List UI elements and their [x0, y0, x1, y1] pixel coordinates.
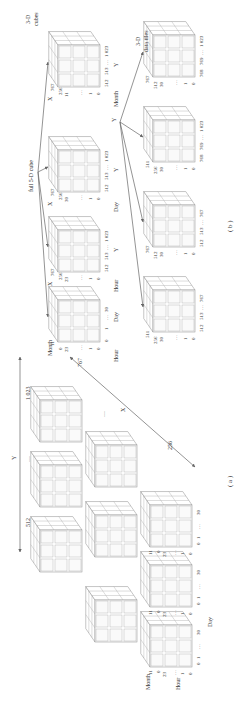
cube-cell [151, 520, 163, 532]
h-tick-dots: … [199, 50, 204, 55]
cube-cell [87, 259, 99, 271]
cube-side-face [144, 192, 195, 205]
cube-cell [59, 329, 71, 341]
root-label: full 5-D cube [28, 160, 34, 192]
panel-a-cube [141, 612, 192, 667]
depth-axis-label: X [47, 281, 53, 286]
cube-cell [87, 151, 99, 163]
top-row-label-line1: 3-D [25, 14, 31, 24]
panel-b-tile-tile-3: 30…10768769…1 023256511 [144, 107, 204, 174]
cube-cell [168, 291, 180, 303]
cube-side-face [31, 452, 82, 465]
cube-cell [154, 149, 166, 161]
cube-cell [110, 544, 122, 556]
hour-max-tick: 23 [162, 612, 167, 618]
panel-b-tile-tile-1: 30…10512513…767256511 [144, 277, 204, 344]
panel-a-cube [86, 587, 137, 642]
cube-cell [182, 234, 194, 246]
v-tick-zero: 0 [96, 92, 101, 95]
h-tick-second: 1 [104, 327, 109, 330]
h-tick-first: 768 [199, 154, 204, 162]
cube-cell [96, 629, 108, 641]
cube-cell [87, 46, 99, 58]
cube-cell [168, 305, 180, 317]
x-axis-end-label: 767 [77, 358, 83, 367]
panel-b-top-cube-month-hour-day: 23…1001…30011HourDayMonth [47, 287, 119, 362]
h-tick-second: 513 [199, 312, 204, 320]
cube-cell [59, 179, 71, 191]
cube-cell [96, 544, 108, 556]
v-tick-zero: 0 [191, 252, 196, 255]
d-tick-first: 256 [58, 87, 63, 95]
panel-b-tile-tile-4: 30…10768769…1 023512767 [144, 22, 204, 89]
day-one-tick: 1 [196, 536, 201, 539]
cube-side-face [31, 517, 82, 530]
h-tick-first: 768 [199, 69, 204, 77]
y-axis-start-label: 512 [25, 518, 31, 527]
h-tick-last: 767 [199, 294, 204, 302]
cube-side-face [49, 32, 100, 45]
cube-cell [41, 429, 53, 441]
cube-cell [96, 615, 108, 627]
h-tick-last: 1 023 [104, 150, 109, 162]
h-tick-dots: … [199, 305, 204, 310]
cube-cell [165, 654, 177, 666]
cube-cell [69, 429, 81, 441]
v-tick-max: 23 [64, 347, 69, 353]
cube-cell [110, 474, 122, 486]
panel-a-cubes: 11023…1001…3011023…1001…3011023…1001…30 [31, 387, 201, 677]
cube-cell [168, 234, 180, 246]
cube-cell [179, 640, 191, 652]
cube-cell [96, 446, 108, 458]
cube-cell [69, 559, 81, 571]
cube-cell [59, 245, 71, 257]
panel-b-bottom-row: 30…10512513…76725651130…10512513…7675127… [144, 22, 204, 344]
cube-cell [110, 601, 122, 613]
v-tick-dots: … [173, 335, 178, 340]
cube-side-face [144, 277, 195, 290]
cube-cell [73, 151, 85, 163]
cube-cell [41, 494, 53, 506]
cube-cell [124, 629, 136, 641]
hour-dots-tick: … [172, 610, 177, 615]
vertical-axis-label: Month [113, 91, 119, 107]
cube-cell [154, 50, 166, 62]
top-row-label: 3-D cubes [25, 12, 39, 26]
v-tick-one: 1 [183, 167, 188, 170]
v-tick-one: 1 [183, 337, 188, 340]
cube-cell [179, 580, 191, 592]
cube-cell [154, 291, 166, 303]
cube-cell [182, 220, 194, 232]
day-dots-tick: … [196, 644, 201, 649]
h-tick-second: 513 [104, 172, 109, 180]
cube-cell [59, 74, 71, 86]
cube-cell [55, 480, 67, 492]
cube-cell [179, 594, 191, 606]
d-tick-last: 767 [145, 245, 150, 253]
x-axis-middle-label: … [100, 411, 106, 417]
h-tick-dots: … [104, 315, 109, 320]
cube-cell [124, 530, 136, 542]
cube-cell [59, 301, 71, 313]
cube-cell [154, 305, 166, 317]
cube-cell [110, 615, 122, 627]
v-tick-dots: … [173, 250, 178, 255]
horizontal-axis-label: Day [113, 312, 119, 322]
cube-cell [165, 580, 177, 592]
y-axis-middle-label: … [25, 456, 31, 462]
cube-cell [41, 559, 53, 571]
panel-b-caption: ( b ) [226, 220, 234, 232]
cube-cell [73, 245, 85, 257]
cube-cell [182, 36, 194, 48]
month-max-tick: 11 [148, 610, 153, 615]
h-tick-second: 769 [199, 142, 204, 150]
vertical-axis-label: Hour [113, 350, 119, 362]
v-tick-dots: … [78, 275, 83, 280]
cube-cell [87, 329, 99, 341]
cube-cell [151, 534, 163, 546]
cube-cell [182, 305, 194, 317]
cube-cell [73, 165, 85, 177]
v-tick-max: 30 [159, 252, 164, 258]
cube-cell [151, 594, 163, 606]
v-tick-zero: 0 [96, 277, 101, 280]
